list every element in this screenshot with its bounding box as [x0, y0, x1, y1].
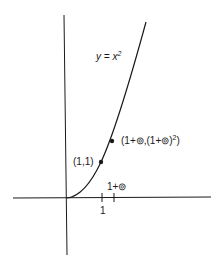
curve-label: y = x2	[96, 50, 121, 62]
tick-1-label: 1	[100, 206, 106, 216]
point-1-1-label: (1,1)	[73, 157, 94, 167]
point-1-plus-eps	[110, 139, 114, 143]
point-1-1	[99, 160, 103, 164]
diagram-canvas	[0, 0, 223, 269]
tick-1-plus-eps-label: 1+⊚	[107, 182, 126, 192]
x-axis	[13, 197, 211, 198]
point-1-plus-eps-label: (1+⊚,(1+⊚)2)	[121, 134, 180, 146]
y-axis	[64, 15, 67, 255]
parabola-curve	[67, 22, 146, 198]
